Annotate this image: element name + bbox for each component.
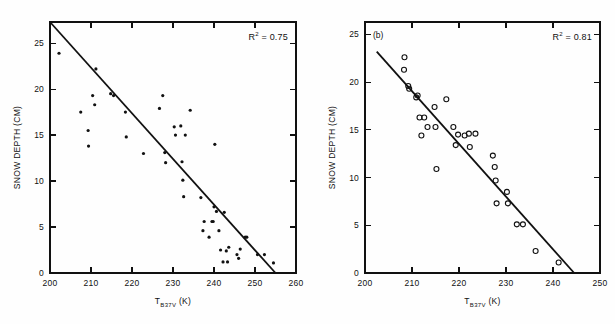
data-point xyxy=(219,248,222,251)
data-point xyxy=(494,201,499,206)
y-tick-label: 10 xyxy=(349,173,359,183)
y-tick-label: 25 xyxy=(349,29,359,39)
data-point xyxy=(505,201,510,206)
data-point xyxy=(212,220,215,223)
data-point xyxy=(94,67,97,70)
data-point xyxy=(466,131,471,136)
r-squared-annotation: R2 = 0.75 xyxy=(249,31,288,42)
data-point xyxy=(520,222,525,227)
data-point xyxy=(181,179,184,182)
y-tick-label: 15 xyxy=(34,130,44,140)
data-point xyxy=(87,129,90,132)
x-tick-label: 200 xyxy=(358,278,373,288)
data-point xyxy=(556,260,561,265)
plot-frame xyxy=(365,22,600,273)
panel-b-plot: 2002102202302402500510152025(b)R2 = 0.81… xyxy=(307,0,615,324)
x-tick-label: 220 xyxy=(452,278,467,288)
data-point xyxy=(179,124,182,127)
data-point xyxy=(514,222,519,227)
data-point xyxy=(161,94,164,97)
data-point xyxy=(239,247,242,250)
y-tick-label: 15 xyxy=(349,125,359,135)
data-point xyxy=(444,97,449,102)
data-point xyxy=(213,143,216,146)
data-point xyxy=(473,131,478,136)
data-point xyxy=(207,236,210,239)
data-point xyxy=(180,160,183,163)
x-axis-title: TB37V (K) xyxy=(464,296,500,308)
data-point xyxy=(112,94,115,97)
data-point xyxy=(245,236,248,239)
y-tick-label: 20 xyxy=(34,84,44,94)
data-point xyxy=(158,107,161,110)
y-tick-label: 10 xyxy=(34,176,44,186)
data-point xyxy=(419,133,424,138)
x-tick-label: 230 xyxy=(166,278,181,288)
scatter-panel-b: 2002102202302402500510152025(b)R2 = 0.81… xyxy=(307,0,615,324)
data-point xyxy=(433,124,438,129)
data-point xyxy=(456,132,461,137)
data-point xyxy=(201,229,204,232)
data-point xyxy=(164,161,167,164)
data-point xyxy=(504,189,509,194)
data-point xyxy=(217,229,220,232)
plot-frame xyxy=(50,22,296,273)
x-axis-title: TB37V (K) xyxy=(155,296,191,308)
y-tick-label: 5 xyxy=(354,220,359,230)
data-point xyxy=(226,260,229,263)
data-point xyxy=(256,253,259,256)
data-point xyxy=(124,111,127,114)
data-point xyxy=(57,52,60,55)
data-point xyxy=(163,151,166,154)
y-tick-label: 5 xyxy=(39,222,44,232)
data-point xyxy=(227,246,230,249)
panel-label: (b) xyxy=(373,30,384,40)
x-tick-label: 240 xyxy=(207,278,222,288)
data-point xyxy=(467,145,472,150)
data-point xyxy=(109,92,112,95)
data-point xyxy=(237,257,240,260)
data-point xyxy=(533,249,538,254)
x-tick-label: 260 xyxy=(289,278,304,288)
data-point xyxy=(402,67,407,72)
data-point xyxy=(425,124,430,129)
x-tick-label: 200 xyxy=(43,278,58,288)
data-point xyxy=(221,260,224,263)
data-point xyxy=(189,109,192,112)
x-tick-label: 210 xyxy=(84,278,99,288)
data-point xyxy=(272,261,275,264)
data-point xyxy=(223,211,226,214)
data-point xyxy=(453,143,458,148)
data-point xyxy=(434,166,439,171)
data-point xyxy=(142,152,145,155)
data-point xyxy=(432,104,437,109)
x-tick-label: 220 xyxy=(125,278,140,288)
x-tick-label: 250 xyxy=(593,278,608,288)
data-point xyxy=(91,94,94,97)
data-point xyxy=(174,133,177,136)
data-point xyxy=(235,253,238,256)
data-point xyxy=(493,178,498,183)
data-point xyxy=(184,133,187,136)
data-point xyxy=(215,210,218,213)
regression-line xyxy=(50,22,276,273)
data-point xyxy=(225,249,228,252)
data-point xyxy=(212,205,215,208)
y-tick-label: 0 xyxy=(354,268,359,278)
x-tick-label: 210 xyxy=(405,278,420,288)
data-point xyxy=(263,253,266,256)
y-axis-title: SNOW DEPTH (CM) xyxy=(12,106,22,189)
data-point xyxy=(93,103,96,106)
figure-container: 2002102202302402502600510152025R2 = 0.75… xyxy=(0,0,615,324)
r-squared-annotation: R2 = 0.81 xyxy=(553,31,592,42)
data-point xyxy=(451,124,456,129)
panel-a-plot: 2002102202302402502600510152025R2 = 0.75… xyxy=(0,0,308,324)
x-tick-label: 240 xyxy=(546,278,561,288)
data-point xyxy=(199,196,202,199)
data-point xyxy=(79,111,82,114)
data-point xyxy=(492,165,497,170)
data-point xyxy=(490,153,495,158)
data-point xyxy=(203,220,206,223)
data-point xyxy=(125,135,128,138)
y-axis-title: SNOW DEPTH (CM) xyxy=(327,106,337,189)
